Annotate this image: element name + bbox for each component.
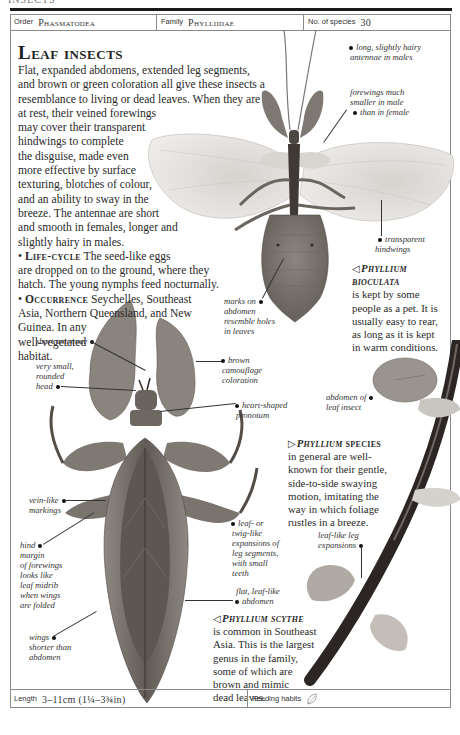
label-wings-shorter: wings shorter than abdomen	[29, 632, 71, 662]
pointer-dot	[369, 396, 373, 400]
caption-phyllium-species: ▷Phyllium species in general are well- k…	[288, 437, 387, 529]
label-hind-margin: hind margin of forewings looks like leaf…	[20, 540, 62, 610]
pointer-dot	[62, 499, 66, 503]
feeding-habits-cell: Feeding habits	[248, 690, 318, 708]
caption-phyllium-bioculata: ◁Phyllium bioculata is kept by some peop…	[352, 262, 438, 354]
field-guide-page: INSECTS Order Phasmatodea Family Phyllii…	[0, 0, 460, 735]
pointer-dot	[349, 46, 353, 50]
length-cell: Length 3–11cm (1¼–3¾in)	[10, 690, 248, 708]
intro-line: and brown or green coloration all give t…	[18, 78, 265, 92]
feeding-habits-label: Feeding habits	[252, 694, 301, 703]
lifecycle-line: hatch. The young nymphs feed nocturnally…	[18, 278, 265, 292]
intro-line: and an ability to sway in the	[18, 193, 265, 207]
label-male-forewings: forewings much smaller in male than in f…	[350, 87, 409, 117]
leaf-icon	[306, 693, 318, 705]
family-value: Phylliidae	[188, 17, 234, 28]
footer-info-row: Length 3–11cm (1¼–3¾in) Feeding habits	[10, 689, 451, 708]
label-male-antennae: long, slightly hairy antennae in males	[346, 42, 421, 62]
label-leg-expansions: leaf- or twig-like expansions of leg seg…	[228, 518, 279, 578]
leader-line	[196, 361, 222, 362]
order-cell: Order Phasmatodea	[10, 14, 157, 30]
species-count-label: No. of species	[308, 17, 356, 26]
intro-line: the disguise, made even	[18, 150, 265, 164]
pointer-dot	[259, 300, 263, 304]
label-vein-markings: vein-like markings	[29, 495, 69, 515]
lifecycle-line: are dropped on to the ground, where they	[18, 264, 265, 278]
intro-line: and smooth in females, longer and	[18, 221, 265, 235]
pointer-triangle-right-icon: ▷	[288, 438, 296, 449]
label-abdomen-marks: marks on abdomen resemble holes in leave…	[224, 296, 275, 336]
leader-line	[66, 500, 106, 501]
intro-line: slightly hairy in males.	[18, 236, 265, 250]
intro-line: hindwings to complete	[18, 135, 265, 149]
top-rule	[10, 8, 452, 11]
label-leaf-leg-expansions: leaf-like leg expansions	[318, 530, 366, 550]
lifecycle-heading: Life-cycle	[25, 250, 81, 263]
label-flat-abdomen: flat, leaf-like abdomen	[232, 586, 280, 606]
caption-heading: ◁Phyllium	[352, 262, 407, 274]
pointer-dot	[235, 404, 239, 408]
pointer-dot	[378, 238, 382, 242]
pointer-dot	[235, 600, 239, 604]
family-cell: Family Phylliidae	[157, 14, 304, 30]
caption-heading: ◁Phyllium scythe	[213, 612, 304, 624]
intro-line: may cover their transparent	[18, 121, 265, 135]
order-value: Phasmatodea	[38, 17, 95, 28]
label-transparent-hindwings: transparent hindwings	[375, 234, 425, 254]
intro-line: breeze. The antennae are short	[18, 207, 265, 221]
lifecycle-line: • Life-cycle The seed-like eggs	[18, 250, 265, 264]
label-short-antennae: short antennae	[36, 336, 97, 346]
leader-line	[361, 546, 362, 578]
running-head: INSECTS	[8, 0, 56, 5]
intro-line: at rest, their veined forewings	[18, 107, 265, 121]
species-count-cell: No. of species 30	[304, 14, 451, 30]
pointer-dot	[56, 385, 60, 389]
leader-line	[381, 200, 382, 236]
pointer-dot	[38, 544, 42, 548]
order-label: Order	[14, 17, 33, 26]
label-brown-camouflage: brown camouflage coloration	[218, 355, 262, 385]
caption-heading: ▷Phyllium species	[288, 437, 381, 449]
page-title: Leaf insects	[18, 42, 123, 64]
intro-line: resemblance to living or dead leaves. Wh…	[18, 93, 265, 107]
length-value: 3–11cm (1¼–3¾in)	[42, 694, 126, 705]
classification-header: Order Phasmatodea Family Phylliidae No. …	[10, 14, 451, 31]
pointer-triangle-left-icon: ◁	[352, 263, 360, 274]
leader-line	[185, 600, 233, 601]
label-abdomen-leaf-insect: abdomen of leaf insect	[326, 392, 376, 412]
pointer-dot	[353, 111, 357, 115]
pointer-triangle-left-icon: ◁	[213, 613, 221, 624]
pointer-dot	[231, 522, 235, 526]
occurrence-heading: Occurrence	[25, 293, 88, 306]
label-heart-pronotum: heart-shaped pronotum	[232, 400, 287, 420]
intro-line: more effective by surface	[18, 164, 265, 178]
length-label: Length	[14, 694, 37, 703]
intro-line: Flat, expanded abdomens, extended leg se…	[18, 64, 265, 78]
intro-line: texturing, blotches of colour,	[18, 178, 265, 192]
family-label: Family	[161, 17, 183, 26]
species-count-value: 30	[361, 17, 372, 28]
